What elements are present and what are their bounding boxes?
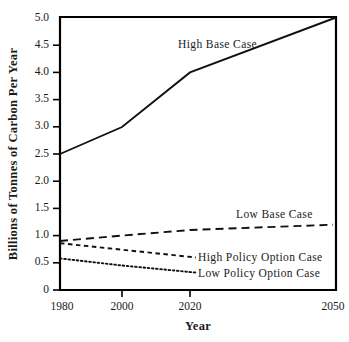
- series-label-low-policy-option-case: Low Policy Option Case: [198, 267, 320, 280]
- y-tick-label: 5.0: [35, 11, 50, 23]
- x-axis-tick-labels: 1980 2000 2020 2050: [51, 300, 345, 312]
- plot-frame: [60, 17, 336, 290]
- x-tick-label: 2000: [111, 300, 134, 312]
- x-axis-title: Year: [185, 319, 211, 333]
- series-label-low-base-case: Low Base Case: [236, 208, 313, 220]
- y-tick-label: 3.0: [35, 119, 50, 131]
- y-tick-label: 1.5: [35, 201, 50, 213]
- series-label-high-policy-option-case: High Policy Option Case: [198, 251, 323, 264]
- y-tick-label: 4.5: [35, 38, 50, 50]
- carbon-emissions-line-chart: 5.0 4.5 4.0 3.5 3.0 2.5 2.0 1.5 1.0 0.5 …: [0, 0, 349, 342]
- series-line-low-base-case: [60, 225, 333, 241]
- y-tick-label: 3.5: [35, 92, 50, 104]
- x-tick-label: 2050: [322, 300, 345, 312]
- y-tick-label: 2.5: [35, 147, 50, 159]
- series-line-high-policy-option-case: [60, 243, 196, 257]
- plot-axes: [60, 17, 336, 290]
- x-tick-label: 2020: [179, 300, 202, 312]
- y-tick-label: 0: [43, 283, 49, 295]
- series-annotations: High Base Case Low Base Case High Policy…: [178, 38, 323, 280]
- y-tick-label: 1.0: [35, 228, 50, 240]
- y-axis-title: Billions of Tonnes of Carbon Per Year: [6, 48, 20, 261]
- y-tick-label: 4.0: [35, 65, 50, 77]
- series-label-high-base-case: High Base Case: [178, 38, 257, 51]
- y-tick-label: 0.5: [35, 255, 50, 267]
- series-line-low-policy-option-case: [60, 258, 196, 272]
- y-axis-tick-labels: 5.0 4.5 4.0 3.5 3.0 2.5 2.0 1.5 1.0 0.5 …: [35, 11, 50, 295]
- y-tick-label: 2.0: [35, 174, 50, 186]
- data-series-group: [60, 18, 336, 273]
- chart-canvas: 5.0 4.5 4.0 3.5 3.0 2.5 2.0 1.5 1.0 0.5 …: [0, 0, 349, 342]
- x-tick-label: 1980: [51, 300, 74, 312]
